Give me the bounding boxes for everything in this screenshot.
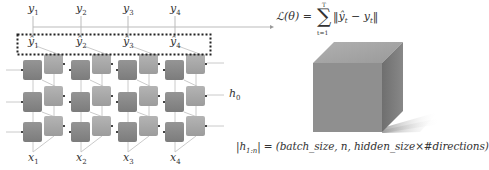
forward-cell <box>23 60 42 80</box>
forward-cell <box>71 60 90 80</box>
layer-3 <box>23 116 205 142</box>
output-label-y2: y2 <box>76 3 87 17</box>
output-label-y1: y1 <box>28 3 39 17</box>
prediction-box <box>18 35 211 55</box>
forward-cell <box>165 60 184 80</box>
backward-cell <box>186 86 205 106</box>
forward-cell <box>23 122 42 142</box>
input-label-x2: x2 <box>76 152 87 166</box>
input-label-x3: x3 <box>123 152 134 166</box>
hidden-state-tensor-cube <box>313 42 440 133</box>
prediction-label-yhat2: ŷ2 <box>76 36 87 50</box>
forward-cell <box>118 92 137 112</box>
loss-body: ‖ŷt − yt‖ <box>333 10 378 25</box>
rnn-cells <box>23 54 205 142</box>
tensor-shape-equation: |h1:n| = (batch_size, n, hidden_size×#di… <box>236 140 489 155</box>
initial-hidden-label-h0: h0 <box>229 88 241 102</box>
forward-cell <box>23 92 42 112</box>
forward-cell <box>165 92 184 112</box>
sum-symbol: ∑ <box>317 4 331 28</box>
layer-1 <box>23 54 205 80</box>
backward-cell <box>44 86 63 106</box>
forward-cell <box>165 122 184 142</box>
input-label-x4: x4 <box>170 152 181 166</box>
output-connectors <box>33 16 270 36</box>
prediction-label-yhat1: ŷ1 <box>28 36 39 50</box>
sum-lower-limit: t=1 <box>317 29 328 36</box>
layer-2 <box>23 86 205 112</box>
backward-cell <box>186 54 205 74</box>
forward-cell <box>71 92 90 112</box>
loss-arrow-icon <box>270 25 274 29</box>
prediction-label-yhat3: ŷ3 <box>123 36 134 50</box>
backward-cell <box>92 54 111 74</box>
input-label-x1: x1 <box>28 152 39 166</box>
backward-cell <box>44 116 63 136</box>
backward-cell <box>44 54 63 74</box>
output-label-y4: y4 <box>170 3 181 17</box>
backward-cell <box>139 86 158 106</box>
backward-cell <box>139 54 158 74</box>
backward-cell <box>186 116 205 136</box>
prediction-label-yhat4: ŷ4 <box>170 36 181 50</box>
backward-cell <box>92 116 111 136</box>
forward-cell <box>118 60 137 80</box>
backward-cell <box>92 86 111 106</box>
output-label-y3: y3 <box>123 3 134 17</box>
loss-lhs: ℒ(θ) = <box>276 10 312 23</box>
forward-cell <box>71 122 90 142</box>
backward-cell <box>139 116 158 136</box>
loss-equation: ℒ(θ) = <box>276 10 312 23</box>
forward-cell <box>118 122 137 142</box>
